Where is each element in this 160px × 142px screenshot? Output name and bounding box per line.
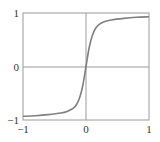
y-tick-label-top: 1 bbox=[14, 7, 20, 19]
x-tick-label-right: 1 bbox=[146, 123, 152, 135]
x-tick-label-left: −1 bbox=[17, 123, 29, 135]
x-tick-label-mid: 0 bbox=[83, 123, 89, 135]
sigmoid-chart: 1 0 −1 −1 0 1 bbox=[0, 0, 160, 142]
y-tick-label-mid: 0 bbox=[14, 61, 20, 73]
